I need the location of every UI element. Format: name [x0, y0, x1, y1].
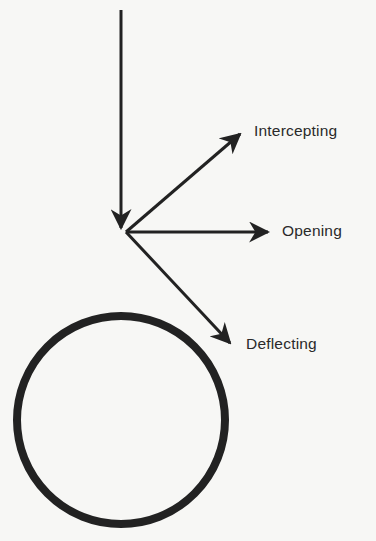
- diagram-canvas: [0, 0, 376, 541]
- deflecting-label: Deflecting: [246, 335, 317, 353]
- intercepting-label: Intercepting: [254, 122, 337, 140]
- target-circle: [17, 316, 225, 524]
- intercepting-arrow: [126, 134, 240, 232]
- opening-label: Opening: [282, 222, 342, 240]
- deflecting-arrow: [126, 232, 230, 343]
